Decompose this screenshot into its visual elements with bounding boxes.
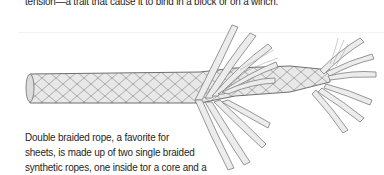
caption-line: Double braided rope, a favorite for [25,130,197,145]
figure-caption: Double braided rope, a favorite for shee… [25,130,197,175]
caption-line: sheets, is made up of two single braided [25,145,197,160]
body-text-line: tension—a trait that cause it to bind in… [25,0,334,9]
caption-line: synthetic ropes, one inside tor a core a… [25,160,197,175]
